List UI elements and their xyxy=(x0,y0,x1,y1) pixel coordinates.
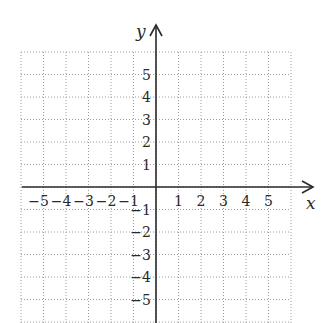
y-tick-label: −5 xyxy=(130,292,151,308)
y-tick-label: 3 xyxy=(142,112,151,128)
x-tick-label: −4 xyxy=(51,193,72,209)
y-tick-label: −3 xyxy=(130,247,151,263)
x-tick-label: 2 xyxy=(197,193,206,209)
x-tick-label: 1 xyxy=(174,193,183,209)
y-tick-label: 2 xyxy=(142,134,151,150)
x-axis-label: x xyxy=(306,193,316,213)
x-tick-label: −2 xyxy=(96,193,117,209)
y-tick-label: −1 xyxy=(130,202,151,218)
x-tick-label: 4 xyxy=(242,193,251,209)
x-tick-label: −3 xyxy=(73,193,94,209)
y-tick-label: 4 xyxy=(142,89,151,105)
y-tick-label: −4 xyxy=(130,269,151,285)
y-axis-label: y xyxy=(135,21,146,41)
x-tick-label: 5 xyxy=(264,193,273,209)
x-tick-label: −5 xyxy=(28,193,49,209)
y-tick-label: 1 xyxy=(142,157,151,173)
x-tick-label: 3 xyxy=(219,193,228,209)
y-tick-label: −2 xyxy=(130,224,151,240)
coordinate-plane: x y −5−4−3−2−112345 54321−1−2−3−4−5 xyxy=(0,0,334,323)
y-tick-label: 5 xyxy=(142,67,151,83)
